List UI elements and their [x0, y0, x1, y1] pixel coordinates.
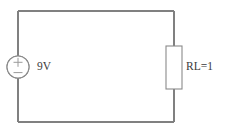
schematic-svg: 9V RL=1 — [0, 0, 226, 133]
resistor-symbol — [166, 46, 182, 89]
circuit-diagram: 9V RL=1 — [0, 0, 226, 133]
voltage-source-label: 9V — [37, 60, 52, 72]
resistor-label: RL=1 — [186, 60, 213, 72]
